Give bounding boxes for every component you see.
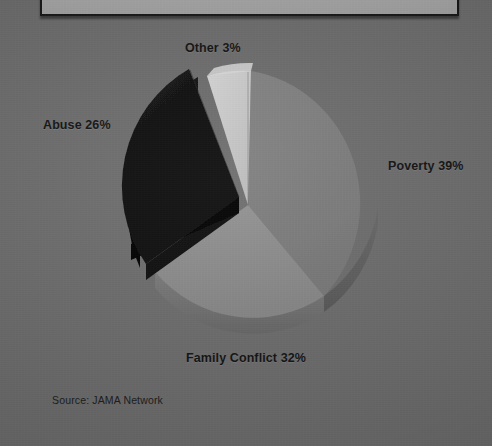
pie-label-other: Other 3% <box>185 41 241 55</box>
pie-chart <box>0 0 492 446</box>
pie-label-abuse: Abuse 26% <box>43 118 111 132</box>
pie-label-poverty: Poverty 39% <box>388 159 463 173</box>
pie-chart-svg <box>0 0 492 446</box>
chart-page: Other 3% Abuse 26% Poverty 39% Family Co… <box>0 0 492 446</box>
source-attribution: Source: JAMA Network <box>52 394 163 406</box>
pie-label-family-conflict: Family Conflict 32% <box>186 351 306 365</box>
